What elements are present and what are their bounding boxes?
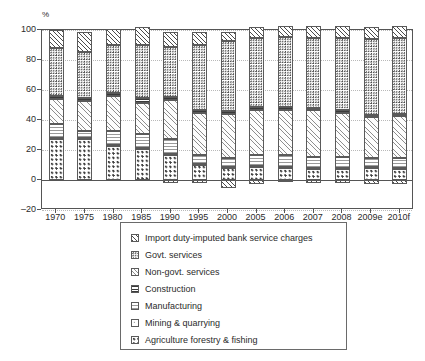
bar-2005[interactable] <box>249 30 264 210</box>
bar-segment-2008-import-duty-imputed-bank-service-charges[interactable] <box>335 26 350 38</box>
bar-segment-2005-construction[interactable] <box>249 107 264 110</box>
bar-segment-2006-mining-quarrying[interactable] <box>278 167 293 169</box>
bar-segment-1970-agriculture-forestry-fishing[interactable] <box>49 139 64 180</box>
bar-segment-1985-mining-quarrying[interactable] <box>135 148 150 150</box>
bar-segment-1985-govt-services[interactable] <box>135 45 150 98</box>
bar-segment-2010f-govt-services[interactable] <box>392 38 407 114</box>
bar-segment-1980-construction[interactable] <box>106 93 121 96</box>
bar-segment-1980-manufacturing[interactable] <box>106 131 121 145</box>
bar-segment-1990-import-duty-imputed-bank-service-charges[interactable] <box>163 32 178 47</box>
bar-1980[interactable] <box>106 30 121 210</box>
bar-segment-2009e-govt-services[interactable] <box>364 39 379 115</box>
bar-segment-2000-non-govt-services[interactable] <box>221 114 236 158</box>
bar-segment-2006-agriculture-forestry-fishing[interactable] <box>278 168 293 180</box>
bar-segment-2009e-mining-quarrying[interactable] <box>364 167 379 169</box>
bar-segment-1990-import-duty-negative[interactable] <box>163 180 178 183</box>
bar-segment-1970-import-duty-imputed-bank-service-charges[interactable] <box>49 30 64 48</box>
bar-segment-1975-manufacturing[interactable] <box>77 131 92 138</box>
bar-segment-2000-import-duty-negative[interactable] <box>221 180 236 188</box>
bar-segment-1980-import-duty-imputed-bank-service-charges[interactable] <box>106 29 121 46</box>
bar-segment-2006-import-duty-imputed-bank-service-charges[interactable] <box>278 26 293 37</box>
bar-segment-1995-import-duty-imputed-bank-service-charges[interactable] <box>192 32 207 45</box>
bar-segment-1990-govt-services[interactable] <box>163 47 178 97</box>
bar-segment-2005-mining-quarrying[interactable] <box>249 166 264 168</box>
bar-segment-1990-mining-quarrying[interactable] <box>163 154 178 156</box>
bar-segment-2006-non-govt-services[interactable] <box>278 110 293 155</box>
bar-segment-2008-import-duty-negative[interactable] <box>335 180 350 183</box>
bar-1995[interactable] <box>192 30 207 210</box>
legend-item-govt-services[interactable]: Govt. services <box>131 246 346 263</box>
bar-segment-1985-construction[interactable] <box>135 98 150 103</box>
bar-segment-1970-govt-services[interactable] <box>49 48 64 96</box>
bar-segment-2006-manufacturing[interactable] <box>278 155 293 167</box>
bar-segment-2007-agriculture-forestry-fishing[interactable] <box>306 169 321 180</box>
legend-item-agriculture-forestry-fishing[interactable]: Agriculture forestry & fishing <box>131 331 346 348</box>
bar-segment-1995-mining-quarrying[interactable] <box>192 164 207 166</box>
legend-item-non-govt-services[interactable]: Non-govt. services <box>131 263 346 280</box>
bar-segment-1990-manufacturing[interactable] <box>163 139 178 154</box>
bar-segment-2005-import-duty-imputed-bank-service-charges[interactable] <box>249 27 264 38</box>
bar-segment-2010f-import-duty-imputed-bank-service-charges[interactable] <box>392 26 407 38</box>
bar-segment-1995-govt-services[interactable] <box>192 45 207 110</box>
bar-segment-2000-agriculture-forestry-fishing[interactable] <box>221 167 236 180</box>
bar-segment-1975-mining-quarrying[interactable] <box>77 138 92 140</box>
bar-segment-1980-agriculture-forestry-fishing[interactable] <box>106 146 121 181</box>
bar-segment-1970-construction[interactable] <box>49 96 64 99</box>
bar-segment-2007-mining-quarrying[interactable] <box>306 168 321 170</box>
bar-segment-1990-construction[interactable] <box>163 97 178 100</box>
bar-segment-2007-manufacturing[interactable] <box>306 157 321 168</box>
bar-segment-2000-import-duty-imputed-bank-service-charges[interactable] <box>221 32 236 40</box>
bar-segment-1985-non-govt-services[interactable] <box>135 103 150 135</box>
bar-segment-1970-mining-quarrying[interactable] <box>49 138 64 140</box>
bar-1970[interactable] <box>49 30 64 210</box>
bar-segment-2008-agriculture-forestry-fishing[interactable] <box>335 169 350 180</box>
bar-segment-2005-agriculture-forestry-fishing[interactable] <box>249 167 264 181</box>
bar-segment-2008-manufacturing[interactable] <box>335 157 350 168</box>
bar-segment-2000-construction[interactable] <box>221 111 236 114</box>
bar-segment-2008-govt-services[interactable] <box>335 38 350 110</box>
bar-1985[interactable] <box>135 30 150 210</box>
legend-item-manufacturing[interactable]: Manufacturing <box>131 297 346 314</box>
bar-1975[interactable] <box>77 30 92 210</box>
bar-segment-1980-non-govt-services[interactable] <box>106 96 121 131</box>
bar-segment-1995-construction[interactable] <box>192 110 207 113</box>
bar-segment-2010f-construction[interactable] <box>392 114 407 116</box>
bar-segment-1975-agriculture-forestry-fishing[interactable] <box>77 139 92 180</box>
legend-item-mining-quarrying[interactable]: Mining & quarrying <box>131 314 346 331</box>
bar-segment-2010f-manufacturing[interactable] <box>392 158 407 168</box>
bar-segment-2010f-agriculture-forestry-fishing[interactable] <box>392 169 407 180</box>
bar-segment-1995-agriculture-forestry-fishing[interactable] <box>192 164 207 180</box>
bar-segment-1980-govt-services[interactable] <box>106 45 121 93</box>
bar-segment-2000-manufacturing[interactable] <box>221 158 236 167</box>
bar-segment-1995-manufacturing[interactable] <box>192 155 207 164</box>
bar-2010f[interactable] <box>392 30 407 210</box>
bar-segment-2000-mining-quarrying[interactable] <box>221 167 236 169</box>
bar-segment-1990-non-govt-services[interactable] <box>163 100 178 139</box>
bar-segment-2010f-non-govt-services[interactable] <box>392 116 407 158</box>
bar-2000[interactable] <box>221 30 236 210</box>
bar-segment-1990-agriculture-forestry-fishing[interactable] <box>163 155 178 181</box>
bar-segment-1995-non-govt-services[interactable] <box>192 113 207 155</box>
bar-2006[interactable] <box>278 30 293 210</box>
bar-1990[interactable] <box>163 30 178 210</box>
bar-2009e[interactable] <box>364 30 379 210</box>
bar-segment-1975-import-duty-imputed-bank-service-charges[interactable] <box>77 32 92 52</box>
legend-item-import-duty-imputed-bank-service-charges[interactable]: Import duty-imputed bank service charges <box>131 229 346 246</box>
bar-segment-2007-govt-services[interactable] <box>306 38 321 108</box>
bar-segment-1995-import-duty-negative[interactable] <box>192 180 207 183</box>
bar-segment-2006-import-duty-negative[interactable] <box>278 180 293 182</box>
bar-segment-1970-non-govt-services[interactable] <box>49 99 64 124</box>
bar-segment-1980-mining-quarrying[interactable] <box>106 145 121 147</box>
bar-segment-2005-non-govt-services[interactable] <box>249 110 264 154</box>
bar-segment-2005-manufacturing[interactable] <box>249 155 264 166</box>
bar-segment-2000-govt-services[interactable] <box>221 41 236 112</box>
bar-segment-1985-manufacturing[interactable] <box>135 134 150 148</box>
bar-segment-1975-govt-services[interactable] <box>77 52 92 98</box>
bar-segment-2006-govt-services[interactable] <box>278 37 293 108</box>
bar-segment-2007-non-govt-services[interactable] <box>306 110 321 157</box>
bar-segment-2009e-import-duty-negative[interactable] <box>364 180 379 184</box>
bar-segment-2009e-construction[interactable] <box>364 115 379 117</box>
bar-segment-2007-import-duty-negative[interactable] <box>306 180 321 183</box>
bar-segment-2008-non-govt-services[interactable] <box>335 113 350 157</box>
bar-segment-2009e-agriculture-forestry-fishing[interactable] <box>364 168 379 180</box>
